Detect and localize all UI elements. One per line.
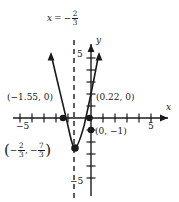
x-tick-label-pos5: 5	[148, 122, 154, 131]
vertex-y-sign: −	[30, 145, 38, 155]
eq-fraction: 23	[72, 10, 79, 26]
plotted-points	[60, 115, 95, 152]
point-vertex	[71, 144, 79, 152]
x-axis-label: x	[166, 103, 171, 112]
eq-denominator: 3	[72, 18, 79, 27]
y-intercept-label: (0, −1)	[95, 127, 127, 136]
y-tick-label-neg5: −5	[70, 177, 83, 186]
y-tick-label-pos5: 5	[77, 50, 83, 59]
eq-equals: =	[54, 13, 62, 23]
vertex-point-label: (−23,−73)	[4, 142, 51, 158]
vertex-close-paren: )	[45, 141, 51, 159]
graph-figure: x=−23 (−23,−73) (−1.55, 0) (0.22, 0) (0,…	[0, 0, 179, 202]
y-axis-label: y	[96, 36, 101, 45]
x-intercept-left-label: (−1.55, 0)	[7, 93, 53, 102]
vertex-y-denominator: 3	[38, 150, 45, 159]
x-tick-label-neg5: −5	[16, 122, 29, 131]
vertex-x-fraction: 23	[18, 142, 25, 158]
eq-variable: x	[47, 13, 52, 23]
vertex-x-numerator: 2	[18, 142, 25, 150]
x-intercept-right-label: (0.22, 0)	[96, 93, 135, 102]
vertex-y-numerator: 7	[38, 142, 45, 150]
point-y-intercept	[88, 127, 95, 134]
axis-of-symmetry-label: x=−23	[47, 10, 79, 26]
vertex-y-fraction: 73	[38, 142, 45, 158]
vertex-x-sign: −	[10, 145, 18, 155]
point-x-intercept-left	[60, 115, 67, 122]
point-x-intercept-right	[86, 115, 93, 122]
vertex-x-denominator: 3	[18, 150, 25, 159]
eq-sign: −	[64, 13, 72, 23]
vertex-comma: ,	[25, 145, 28, 155]
eq-numerator: 2	[72, 10, 79, 18]
